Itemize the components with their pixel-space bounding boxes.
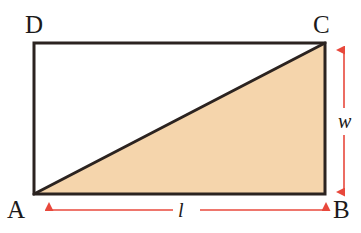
length-dimension-label: l [173, 200, 189, 220]
vertex-label-a: A [7, 197, 25, 222]
vertex-label-d: D [25, 12, 43, 37]
vertex-label-b: B [333, 197, 350, 222]
vertex-label-c: C [313, 12, 330, 37]
geometry-figure: D C A B l w [0, 0, 361, 233]
width-dimension-label: w [334, 108, 355, 134]
